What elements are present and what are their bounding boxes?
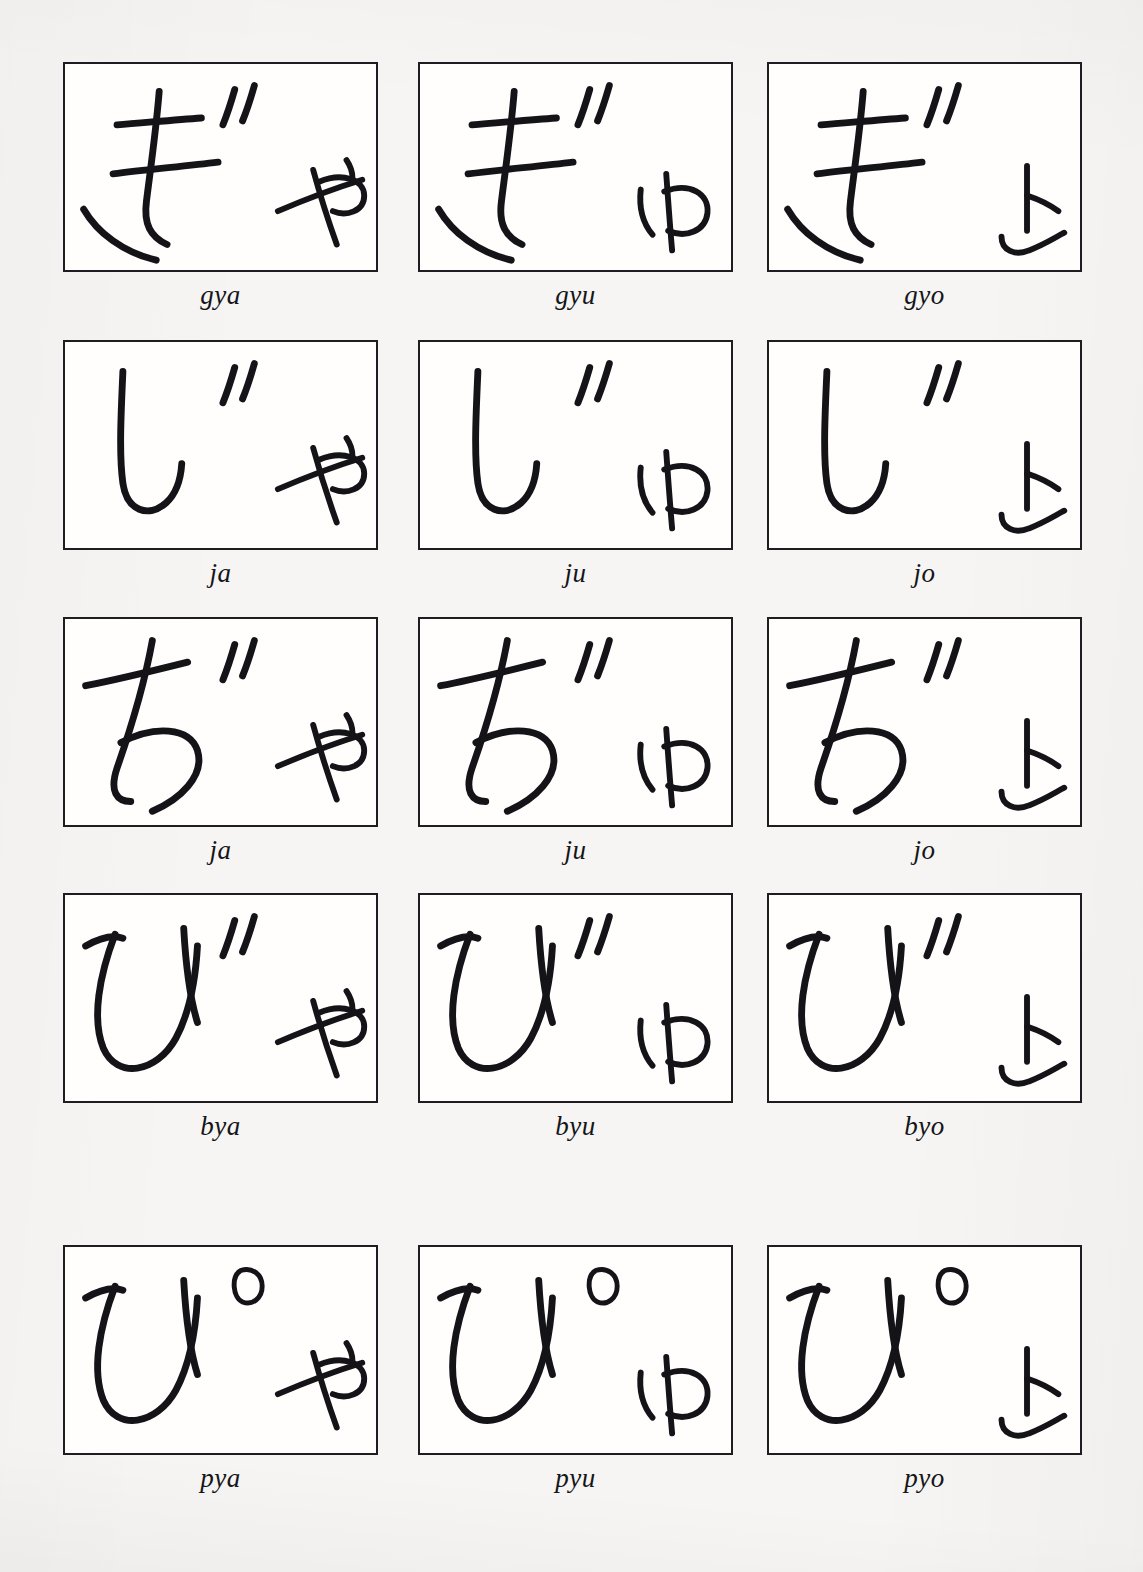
kana-glyph-ぴょ	[769, 1247, 1080, 1453]
kana-glyph-ぢょ	[769, 619, 1080, 825]
kana-card	[767, 1245, 1082, 1455]
kana-glyph-じゅ	[420, 342, 731, 548]
kana-card-label: pya	[63, 1461, 378, 1495]
kana-card-label: bya	[63, 1109, 378, 1143]
kana-glyph-ぎゅ	[420, 64, 731, 270]
handwriting-area	[65, 64, 376, 270]
kana-card-label: gyo	[767, 278, 1082, 312]
handwriting-area	[420, 1247, 731, 1453]
kana-card	[767, 893, 1082, 1103]
kana-card	[63, 62, 378, 272]
kana-card	[418, 617, 733, 827]
kana-glyph-じゃ	[65, 342, 376, 548]
handwriting-area	[65, 895, 376, 1101]
kana-card-label: gyu	[418, 278, 733, 312]
handwriting-area	[420, 64, 731, 270]
handwriting-area	[420, 342, 731, 548]
handwriting-area	[769, 1247, 1080, 1453]
kana-card	[767, 340, 1082, 550]
kana-card-label: byu	[418, 1109, 733, 1143]
kana-card-label: jo	[767, 556, 1082, 590]
kana-card-label: ja	[63, 833, 378, 867]
kana-card	[63, 893, 378, 1103]
kana-card	[418, 340, 733, 550]
kana-glyph-ぴゅ	[420, 1247, 731, 1453]
kana-card-label: jo	[767, 833, 1082, 867]
handwriting-area	[769, 619, 1080, 825]
kana-glyph-びょ	[769, 895, 1080, 1101]
page-canvas: gyagyugyojajujojajujobyabyubyopyapyupyo	[0, 0, 1143, 1572]
handwriting-area	[769, 895, 1080, 1101]
kana-glyph-ぎょ	[769, 64, 1080, 270]
kana-card	[418, 1245, 733, 1455]
kana-card	[767, 617, 1082, 827]
handwriting-area	[65, 342, 376, 548]
kana-card-label: gya	[63, 278, 378, 312]
kana-card	[418, 62, 733, 272]
kana-card	[418, 893, 733, 1103]
handwriting-area	[420, 895, 731, 1101]
kana-card-grid: gyagyugyojajujojajujobyabyubyopyapyupyo	[0, 0, 1143, 1572]
handwriting-area	[769, 64, 1080, 270]
handwriting-area	[420, 619, 731, 825]
kana-card-label: ju	[418, 833, 733, 867]
kana-glyph-びゃ	[65, 895, 376, 1101]
handwriting-area	[769, 342, 1080, 548]
kana-card	[63, 617, 378, 827]
kana-card-label: ja	[63, 556, 378, 590]
kana-card-label: ju	[418, 556, 733, 590]
kana-card	[63, 1245, 378, 1455]
kana-card	[767, 62, 1082, 272]
kana-card	[63, 340, 378, 550]
kana-glyph-ぢゃ	[65, 619, 376, 825]
kana-card-label: byo	[767, 1109, 1082, 1143]
kana-glyph-ぢゅ	[420, 619, 731, 825]
kana-glyph-びゅ	[420, 895, 731, 1101]
kana-glyph-ぴゃ	[65, 1247, 376, 1453]
kana-card-label: pyu	[418, 1461, 733, 1495]
handwriting-area	[65, 619, 376, 825]
kana-card-label: pyo	[767, 1461, 1082, 1495]
kana-glyph-ぎゃ	[65, 64, 376, 270]
kana-glyph-じょ	[769, 342, 1080, 548]
handwriting-area	[65, 1247, 376, 1453]
